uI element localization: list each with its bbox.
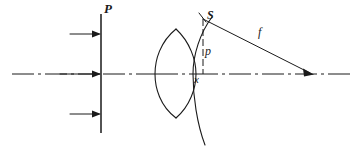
- label-ray-height-p: p: [205, 45, 211, 57]
- incident-ray-bottom: [70, 111, 101, 118]
- incident-ray-middle: [60, 71, 101, 78]
- label-axis-offset-x: x: [194, 74, 199, 85]
- label-plane-P: P: [104, 2, 112, 15]
- optics-diagram: P S f p x: [0, 0, 360, 153]
- label-sphere-point-S: S: [207, 9, 214, 21]
- incident-ray-top: [70, 31, 101, 38]
- label-focal-length-f: f: [258, 26, 261, 38]
- optics-diagram-canvas: [0, 0, 360, 153]
